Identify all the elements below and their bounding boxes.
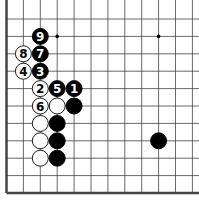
black-stone — [49, 150, 65, 166]
black-stone — [66, 98, 82, 114]
move-number-label: 6 — [36, 100, 44, 114]
move-number-label: 2 — [36, 82, 44, 96]
white-stone — [49, 98, 65, 114]
black-stone — [49, 115, 65, 131]
board-grid: 978342516 — [0, 0, 199, 201]
white-stone — [32, 115, 48, 131]
white-stone — [32, 150, 48, 166]
black-stone — [49, 133, 65, 149]
go-board: 978342516 — [0, 0, 199, 201]
move-number-label: 9 — [36, 30, 44, 44]
move-number-label: 5 — [53, 82, 61, 96]
star-point-icon — [157, 35, 161, 39]
move-number-label: 3 — [36, 65, 44, 79]
star-point-icon — [55, 35, 59, 39]
move-number-label: 1 — [70, 82, 78, 96]
black-stone — [151, 133, 167, 149]
move-number-label: 7 — [36, 47, 44, 61]
move-number-label: 8 — [19, 47, 27, 61]
white-stone — [32, 133, 48, 149]
move-number-label: 4 — [19, 65, 27, 79]
